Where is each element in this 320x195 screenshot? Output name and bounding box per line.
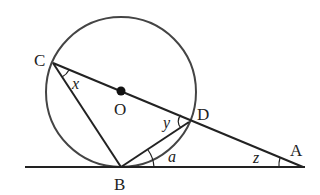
angle-arc-a [148, 150, 154, 167]
angle-arc-x [62, 70, 69, 77]
label-B: B [114, 175, 125, 194]
angle-label-a: a [168, 148, 176, 165]
label-D: D [197, 105, 209, 124]
angle-label-z: z [252, 149, 260, 166]
chord-BD [121, 122, 189, 167]
secant-line-CA [53, 63, 303, 167]
label-C: C [34, 51, 45, 70]
angle-arc-z [279, 158, 280, 167]
label-O: O [114, 100, 126, 119]
label-A: A [290, 141, 303, 160]
angle-label-y: y [161, 114, 171, 132]
chord-CB [53, 63, 121, 167]
geometry-diagram: C O D B A x y a z [0, 0, 320, 195]
angle-label-x: x [71, 75, 79, 92]
center-point-O [117, 87, 126, 96]
